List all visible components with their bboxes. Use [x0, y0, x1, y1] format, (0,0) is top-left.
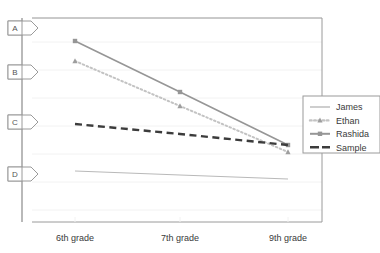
legend-item-label: Sample	[336, 143, 367, 153]
legend-item-label: Ethan	[336, 116, 360, 126]
data-point-marker	[178, 90, 182, 94]
x-axis-label: 9th grade	[269, 233, 307, 243]
legend-swatch-marker	[318, 132, 322, 136]
legend-item-label: James	[336, 102, 363, 112]
chart-legend[interactable]: JamesEthanRashidaSample	[303, 96, 380, 153]
data-point-marker	[73, 39, 77, 43]
y-axis-marker-c[interactable]: C	[8, 115, 38, 129]
y-axis-marker-b[interactable]: B	[8, 65, 38, 79]
x-axis-label: 7th grade	[161, 233, 199, 243]
line-chart: ABCD 6th grade7th grade9th grade JamesEt…	[0, 0, 380, 253]
x-axis-labels: 6th grade7th grade9th grade	[56, 233, 307, 243]
chart-container: ABCD 6th grade7th grade9th grade JamesEt…	[0, 0, 380, 253]
legend-item-label: Rashida	[336, 129, 369, 139]
marker-label-text: C	[12, 118, 18, 127]
marker-label-text: B	[12, 68, 17, 77]
marker-label-text: D	[12, 170, 18, 179]
y-axis-marker-a[interactable]: A	[8, 21, 38, 35]
x-axis-label: 6th grade	[56, 233, 94, 243]
marker-label-text: A	[12, 24, 18, 33]
y-axis-marker-d[interactable]: D	[8, 167, 38, 181]
